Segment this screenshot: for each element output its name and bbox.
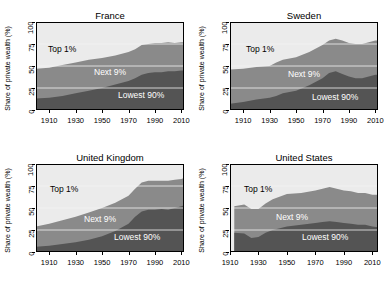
y-tick-label: 0 <box>27 110 36 114</box>
x-tick-mark <box>181 252 182 255</box>
x-tick-label: 1970 <box>307 258 324 267</box>
band-label-next-9-percent: Next 9% <box>288 69 320 79</box>
x-tick-label: 1910 <box>235 116 252 125</box>
band-label-next-9-percent: Next 9% <box>276 212 308 222</box>
y-tick-label: 50 <box>27 208 36 216</box>
band-label-top-1-percent: Top 1% <box>48 44 76 54</box>
x-tick-mark <box>243 110 244 113</box>
y-tick-label: 25 <box>27 230 36 238</box>
x-tick-label: 1930 <box>67 116 84 125</box>
band-label-next-9-percent: Next 9% <box>94 67 126 77</box>
x-tick-mark <box>349 110 350 113</box>
x-tick-mark <box>296 110 297 113</box>
x-tick-mark <box>76 110 77 113</box>
x-tick-label: 1970 <box>314 116 331 125</box>
panel-title: Sweden <box>230 10 378 21</box>
x-tick-label: 2010 <box>173 116 190 125</box>
x-tick-label: 1930 <box>261 116 278 125</box>
x-axis-ticks: 191019301950197019902010 <box>36 110 184 134</box>
x-tick-label: 1990 <box>147 116 164 125</box>
y-axis-label: Share of private wealth (%) <box>196 18 207 118</box>
x-tick-label: 1950 <box>288 116 305 125</box>
x-tick-label: 2010 <box>364 258 381 267</box>
panel-united-states: United StatesShare of private wealth (%)… <box>194 142 388 284</box>
band-label-lowest-90-percent: Lowest 90% <box>302 232 348 242</box>
y-tick-label: 100 <box>221 164 230 177</box>
x-tick-mark <box>155 252 156 255</box>
x-tick-label: 1910 <box>41 116 58 125</box>
band-label-lowest-90-percent: Lowest 90% <box>114 232 160 242</box>
y-axis-label-text: Share of private wealth (%) <box>4 26 11 110</box>
x-tick-label: 1950 <box>279 258 296 267</box>
x-tick-mark <box>102 252 103 255</box>
x-tick-mark <box>102 110 103 113</box>
x-tick-mark <box>375 110 376 113</box>
y-tick-label: 25 <box>221 230 230 238</box>
x-tick-mark <box>344 252 345 255</box>
y-tick-label: 75 <box>27 44 36 52</box>
y-tick-label: 50 <box>221 66 230 74</box>
plot-area: Top 1%Next 9%Lowest 90% <box>230 164 378 252</box>
x-tick-mark <box>315 252 316 255</box>
x-tick-mark <box>155 110 156 113</box>
panel-united-kingdom: United KingdomShare of private wealth (%… <box>0 142 194 284</box>
x-tick-mark <box>287 252 288 255</box>
wealth-share-figure: FranceShare of private wealth (%)0255075… <box>0 0 388 284</box>
x-tick-label: 1910 <box>41 258 58 267</box>
y-tick-label: 25 <box>221 88 230 96</box>
y-tick-label: 100 <box>27 164 36 177</box>
x-tick-mark <box>258 252 259 255</box>
x-tick-mark <box>372 252 373 255</box>
x-tick-mark <box>129 252 130 255</box>
panel-title: United Kingdom <box>36 152 184 163</box>
x-tick-label: 1930 <box>250 258 267 267</box>
y-axis-ticks: 0255075100 <box>208 22 229 110</box>
x-axis-ticks: 191019301950197019902010 <box>36 252 184 276</box>
band-label-next-9-percent: Next 9% <box>84 214 116 224</box>
stacked-area-plot <box>36 164 184 252</box>
y-tick-label: 0 <box>221 252 230 256</box>
y-axis-label-text: Share of private wealth (%) <box>198 26 205 110</box>
x-tick-mark <box>270 110 271 113</box>
y-axis-label-text: Share of private wealth (%) <box>4 168 11 252</box>
x-tick-label: 1970 <box>120 258 137 267</box>
x-tick-label: 1990 <box>336 258 353 267</box>
panel-sweden: SwedenShare of private wealth (%)0255075… <box>194 0 388 142</box>
plot-area: Top 1%Next 9%Lowest 90% <box>230 22 378 110</box>
y-axis-label-text: Share of private wealth (%) <box>198 168 205 252</box>
y-tick-label: 75 <box>27 186 36 194</box>
x-axis-ticks: 191019301950197019902010 <box>230 252 378 276</box>
panel-title: United States <box>230 152 378 163</box>
x-tick-mark <box>49 110 50 113</box>
x-tick-mark <box>230 252 231 255</box>
band-label-lowest-90-percent: Lowest 90% <box>312 92 358 102</box>
x-tick-label: 1970 <box>120 116 137 125</box>
band-label-top-1-percent: Top 1% <box>246 44 274 54</box>
y-axis-ticks: 0255075100 <box>208 164 229 252</box>
y-tick-label: 25 <box>27 88 36 96</box>
y-tick-label: 0 <box>221 110 230 114</box>
panel-title: France <box>36 10 184 21</box>
y-tick-label: 100 <box>27 22 36 35</box>
x-tick-label: 1910 <box>222 258 239 267</box>
y-tick-label: 50 <box>27 66 36 74</box>
x-tick-label: 1930 <box>67 258 84 267</box>
x-axis-ticks: 191019301950197019902010 <box>230 110 378 134</box>
y-axis-ticks: 0255075100 <box>14 22 35 110</box>
y-axis-ticks: 0255075100 <box>14 164 35 252</box>
band-label-top-1-percent: Top 1% <box>50 184 78 194</box>
y-axis-label: Share of private wealth (%) <box>2 18 13 118</box>
panel-france: FranceShare of private wealth (%)0255075… <box>0 0 194 142</box>
y-tick-label: 100 <box>221 22 230 35</box>
y-tick-label: 75 <box>221 44 230 52</box>
x-tick-label: 2010 <box>367 116 384 125</box>
y-axis-label: Share of private wealth (%) <box>2 160 13 260</box>
band-label-lowest-90-percent: Lowest 90% <box>118 90 164 100</box>
x-tick-mark <box>129 110 130 113</box>
band-label-top-1-percent: Top 1% <box>244 184 272 194</box>
y-tick-label: 50 <box>221 208 230 216</box>
x-tick-mark <box>323 110 324 113</box>
y-tick-label: 75 <box>221 186 230 194</box>
plot-area: Top 1%Next 9%Lowest 90% <box>36 22 184 110</box>
x-tick-label: 1950 <box>94 116 111 125</box>
